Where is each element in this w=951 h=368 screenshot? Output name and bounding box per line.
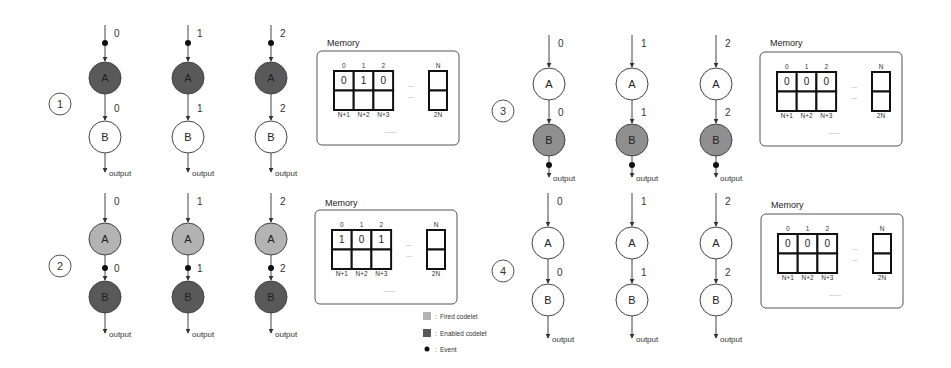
ellipsis: ...... bbox=[829, 290, 841, 297]
memory-box: Memory012000N+1N+2N+3......N2N...... bbox=[760, 38, 902, 146]
event-dot-icon bbox=[185, 40, 191, 46]
panel-4: 400outputAB11outputAB22outputABMemory012… bbox=[492, 193, 903, 344]
codelet-chain: 22outputAB bbox=[255, 193, 298, 339]
svg-text:B: B bbox=[184, 131, 191, 143]
memory-n-index: N bbox=[879, 63, 884, 70]
memory-col-index: 1 bbox=[805, 63, 809, 70]
memory-col-index: 0 bbox=[786, 225, 790, 232]
ellipsis: ... bbox=[406, 251, 412, 258]
memory-row2-index: N+3 bbox=[821, 274, 833, 281]
memory-cell bbox=[797, 92, 817, 112]
input-index: 0 bbox=[114, 196, 120, 207]
codelet-a: A bbox=[616, 227, 648, 259]
memory-cell bbox=[873, 254, 891, 274]
codelet-chain: 00outputAB bbox=[89, 25, 132, 178]
mid-index: 0 bbox=[557, 267, 563, 278]
mid-index: 1 bbox=[197, 103, 203, 114]
memory-value: 1 bbox=[361, 75, 367, 86]
legend-event: :Event bbox=[425, 346, 457, 353]
mid-index: 0 bbox=[558, 107, 564, 118]
ellipsis: ... bbox=[406, 240, 412, 247]
memory-cell bbox=[872, 92, 890, 112]
codelet-a: A bbox=[532, 227, 564, 259]
memory-cell bbox=[427, 230, 445, 250]
ellipsis: ... bbox=[851, 93, 857, 100]
memory-cell bbox=[429, 71, 447, 91]
memory-title: Memory bbox=[770, 38, 803, 48]
mid-index: 0 bbox=[114, 263, 120, 274]
input-index: 1 bbox=[641, 196, 647, 207]
mid-index: 2 bbox=[280, 103, 286, 114]
memory-value: 0 bbox=[341, 75, 347, 86]
codelet-a: A bbox=[255, 62, 287, 94]
memory-n-index: N bbox=[434, 221, 439, 228]
memory-value: 0 bbox=[784, 76, 790, 87]
memory-2n-index: 2N bbox=[877, 112, 886, 119]
svg-text:A: A bbox=[544, 237, 552, 249]
codelet-b: B bbox=[616, 124, 648, 156]
codelet-b: B bbox=[700, 284, 732, 316]
svg-text:A: A bbox=[545, 78, 553, 90]
memory-cell bbox=[817, 254, 837, 274]
memory-row2-index: N+1 bbox=[781, 112, 793, 119]
codelet-b: B bbox=[172, 281, 204, 313]
memory-row2-index: N+1 bbox=[336, 270, 348, 277]
ellipsis: ...... bbox=[828, 128, 840, 135]
memory-row2-index: N+2 bbox=[355, 270, 367, 277]
memory-col-index: 1 bbox=[362, 62, 366, 69]
svg-text:B: B bbox=[545, 134, 552, 146]
memory-row2-index: N+2 bbox=[800, 112, 812, 119]
codelet-b: B bbox=[533, 124, 565, 156]
memory-2n-index: 2N bbox=[434, 111, 443, 118]
memory-value: 0 bbox=[380, 75, 386, 86]
svg-text:A: A bbox=[267, 72, 275, 84]
mid-index: 1 bbox=[641, 267, 647, 278]
codelet-chain: 22outputAB bbox=[700, 193, 743, 344]
svg-text:A: A bbox=[101, 233, 109, 245]
input-index: 2 bbox=[725, 38, 731, 49]
output-label: output bbox=[636, 174, 659, 183]
memory-value: 0 bbox=[785, 238, 791, 249]
memory-n-index: N bbox=[436, 62, 441, 69]
mid-index: 2 bbox=[725, 267, 731, 278]
memory-col-index: 1 bbox=[360, 221, 364, 228]
memory-row2-index: N+3 bbox=[820, 112, 832, 119]
svg-text:B: B bbox=[628, 134, 635, 146]
output-label: output bbox=[552, 335, 575, 344]
output-label: output bbox=[720, 174, 743, 183]
event-dot-icon bbox=[425, 347, 430, 352]
panel-2: 200outputAB11outputAB22outputABMemory012… bbox=[49, 193, 457, 339]
memory-value: 0 bbox=[824, 238, 830, 249]
legend-separator: : bbox=[435, 330, 437, 337]
mid-index: 2 bbox=[280, 263, 286, 274]
memory-cell bbox=[872, 72, 890, 92]
codelet-b: B bbox=[89, 281, 121, 313]
ellipsis: ...... bbox=[383, 286, 395, 293]
ellipsis: ... bbox=[852, 244, 858, 251]
svg-text:B: B bbox=[712, 134, 719, 146]
input-index: 1 bbox=[641, 38, 647, 49]
input-index: 0 bbox=[114, 28, 120, 39]
memory-cell bbox=[816, 92, 836, 112]
codelet-chain: 11outputAB bbox=[616, 193, 659, 344]
step-badge: 1 bbox=[49, 93, 71, 115]
codelet-a: A bbox=[255, 223, 287, 255]
codelet-chain: 00outputAB bbox=[532, 193, 575, 344]
memory-col-index: 0 bbox=[342, 62, 346, 69]
svg-text:A: A bbox=[628, 237, 636, 249]
codelet-chain: 11outputAB bbox=[616, 35, 659, 183]
codelet-b: B bbox=[700, 124, 732, 156]
memory-row2-index: N+2 bbox=[801, 274, 813, 281]
panel-3: 300outputAB11outputAB22outputABMemory012… bbox=[492, 35, 902, 183]
memory-box: Memory012010N+1N+2N+3......N2N...... bbox=[317, 38, 459, 145]
codelet-diagram: 100outputAB11outputAB22outputABMemory012… bbox=[0, 0, 951, 368]
output-label: output bbox=[192, 169, 215, 178]
svg-text:B: B bbox=[184, 291, 191, 303]
memory-col-index: 2 bbox=[381, 62, 385, 69]
memory-cell bbox=[777, 92, 797, 112]
memory-cell bbox=[778, 254, 798, 274]
codelet-b: B bbox=[255, 121, 287, 153]
ellipsis: ... bbox=[852, 255, 858, 262]
svg-text:B: B bbox=[101, 291, 108, 303]
memory-box: Memory012101N+1N+2N+3......N2N...... bbox=[315, 198, 457, 304]
